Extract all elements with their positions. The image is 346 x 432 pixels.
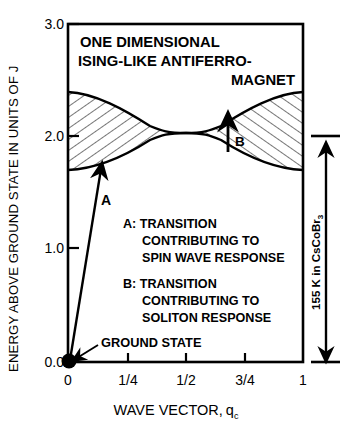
legend-a-line-1: A: TRANSITION bbox=[123, 217, 217, 231]
y-tick-label-0: 0.0 bbox=[45, 354, 65, 370]
energy-scale-label-text: 155 K in CsCoBr bbox=[309, 219, 322, 310]
legend-b: B: TRANSITION CONTRIBUTING TO SOLITON RE… bbox=[123, 277, 271, 325]
legend-a: A: TRANSITION CONTRIBUTING TO SPIN WAVE … bbox=[123, 217, 285, 265]
figure-panel: ENERGY ABOVE GROUND STATE IN UNITS OF J … bbox=[0, 0, 346, 432]
chart-title-line-3: MAGNET bbox=[231, 72, 295, 88]
x-tick-label-1by2: 1/2 bbox=[176, 372, 196, 388]
transition-a-arrow bbox=[70, 169, 101, 360]
x-tick-marks bbox=[128, 353, 245, 362]
legend-a-line-2: CONTRIBUTING TO bbox=[142, 234, 260, 248]
transition-b-label: B bbox=[235, 134, 245, 149]
legend-b-line-3: SOLITON RESPONSE bbox=[142, 311, 271, 325]
x-axis-label: WAVE VECTOR,qc bbox=[114, 402, 239, 421]
chart-title-line-1: ONE DIMENSIONAL bbox=[80, 34, 220, 50]
x-axis-label-main: WAVE VECTOR, bbox=[114, 402, 223, 418]
y-tick-label-2: 2.0 bbox=[45, 128, 65, 144]
legend-b-line-1: B: TRANSITION bbox=[123, 277, 217, 291]
x-tick-label-1: 1 bbox=[299, 372, 307, 388]
energy-scale-label: 155 K in CsCoBr3 bbox=[309, 214, 325, 310]
ground-state-pointer bbox=[77, 345, 98, 358]
x-tick-label-0: 0 bbox=[64, 372, 72, 388]
transition-a-label: A bbox=[101, 192, 111, 208]
band-left-hatch bbox=[60, 80, 200, 190]
legend-b-line-2: CONTRIBUTING TO bbox=[142, 294, 260, 308]
y-axis-label: ENERGY ABOVE GROUND STATE IN UNITS OF J bbox=[6, 65, 21, 372]
x-axis-label-subscript: c bbox=[234, 411, 239, 421]
legend-a-line-3: SPIN WAVE RESPONSE bbox=[142, 251, 285, 265]
x-tick-label-3by4: 3/4 bbox=[235, 372, 255, 388]
energy-scale-label-subscript: 3 bbox=[316, 214, 325, 219]
y-tick-label-3: 3.0 bbox=[45, 16, 65, 32]
dispersion-chart: ENERGY ABOVE GROUND STATE IN UNITS OF J … bbox=[0, 0, 346, 432]
ground-state-dot bbox=[62, 354, 77, 369]
y-tick-label-1: 1.0 bbox=[45, 240, 65, 256]
x-tick-label-1by4: 1/4 bbox=[118, 372, 138, 388]
x-axis-label-symbol: q bbox=[226, 402, 234, 418]
chart-title-line-2: ISING-LIKE ANTIFERRO- bbox=[78, 53, 252, 69]
ground-state-label: GROUND STATE bbox=[101, 335, 202, 350]
